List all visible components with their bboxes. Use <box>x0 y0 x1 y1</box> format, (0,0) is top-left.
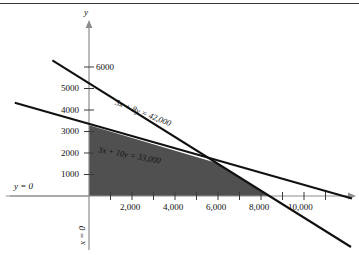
x-tick-label-8000: 8,000 <box>249 203 269 212</box>
x-tick-label-2000: 2,000 <box>120 203 140 212</box>
y-tick-label-2000: 2000 <box>61 149 79 158</box>
y-axis-label: y <box>84 8 88 17</box>
y-tick-label-5000: 5000 <box>61 84 79 93</box>
feasible-region-texture <box>89 125 270 196</box>
y-tick-label-3000: 3000 <box>61 127 79 136</box>
constraint-label-y-equals-0: y = 0 <box>14 182 33 191</box>
y-tick-label-6000: 6000 <box>96 63 114 72</box>
plot-canvas <box>0 0 359 255</box>
x-tick-label-10000: 10,000 <box>288 203 313 212</box>
x-tick-label-4000: 4,000 <box>163 203 183 212</box>
constraint-label-x-equals-0: x = 0 <box>78 226 87 245</box>
y-axis-arrow-icon <box>86 20 93 28</box>
y-tick-label-1000: 1000 <box>61 170 79 179</box>
y-tick-label-4000: 4000 <box>61 106 79 115</box>
graph-figure: y 1000 2000 3000 4000 5000 6000 2,000 4,… <box>0 0 359 255</box>
x-tick-label-6000: 6,000 <box>206 203 226 212</box>
